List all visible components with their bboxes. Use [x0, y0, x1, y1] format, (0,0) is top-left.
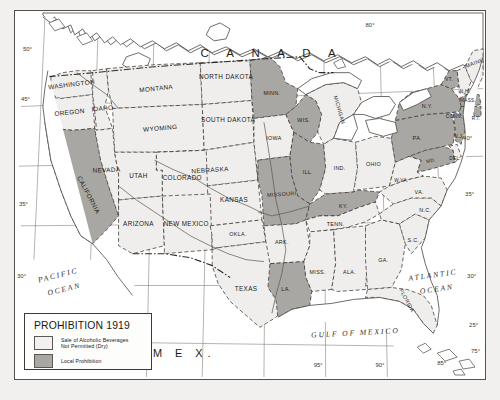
label-tennessee: TENN.: [327, 221, 345, 227]
label-nevada: NEVADA: [92, 165, 121, 173]
map-page: C A N A D A M E X. WASHINGTON OREGON IDA…: [0, 0, 500, 400]
label-mississippi: MISS.: [310, 269, 326, 275]
grat-left-45: 45°: [21, 96, 31, 102]
label-vermont: VT.: [445, 77, 453, 82]
label-massachusetts: MASS.: [460, 99, 476, 104]
label-west-virginia: W.VA.: [394, 178, 408, 183]
label-utah: UTAH: [129, 172, 147, 179]
grat-right-25: 25°: [469, 322, 479, 328]
label-pennsylvania: PA.: [413, 135, 422, 141]
label-oklahoma: OKLA.: [229, 231, 247, 237]
label-indiana: IND.: [334, 165, 346, 171]
state-alabama: [332, 226, 368, 292]
grat-right-40: 40°: [463, 135, 473, 141]
label-south-dakota: SOUTH DAKOTA: [201, 116, 255, 123]
legend-entry-local: Local Prohibition: [34, 354, 151, 368]
grat-left-35: 35°: [19, 201, 29, 207]
grat-left-50: 50°: [23, 46, 33, 52]
label-minnesota: MINN.: [263, 90, 280, 96]
label-kentucky: KY.: [339, 203, 348, 209]
label-new-mexico: NEW MEXICO: [164, 220, 209, 227]
label-iowa: IOWA: [266, 135, 282, 141]
label-new-york: N.Y.: [422, 103, 433, 109]
label-rhode-island: R.I.: [472, 116, 481, 121]
state-south-dakota: [202, 101, 254, 151]
legend-entry-dry: Sale of Alcoholic Beverages Not Permitte…: [34, 336, 151, 350]
grat-left-30: 30°: [17, 273, 27, 279]
label-ohio: OHIO: [366, 161, 381, 167]
label-connecticut: CONN.: [446, 114, 463, 119]
label-kansas: KANSAS: [220, 196, 248, 203]
label-mexico: M E X.: [153, 347, 216, 359]
label-arkansas: ARK.: [275, 239, 289, 245]
grat-top-80: 80°: [366, 22, 376, 28]
legend-label-local: Local Prohibition: [61, 358, 101, 364]
label-wisconsin: WIS.: [297, 117, 310, 123]
label-colorado: COLORADO: [163, 174, 202, 181]
grat-bottom-95: 95°: [314, 362, 324, 368]
grat-right-35: 35°: [465, 191, 475, 197]
legend-title: PROHIBITION 1919: [34, 320, 151, 331]
legend-swatch-dry: [34, 336, 53, 350]
label-virginia: VA.: [415, 189, 424, 195]
label-alabama: ALA.: [343, 269, 356, 275]
label-delaware: DEL.: [449, 156, 461, 161]
map-legend: PROHIBITION 1919 Sale of Alcoholic Bever…: [24, 313, 152, 370]
label-idaho: IDAHO: [91, 104, 113, 113]
label-new-hampshire: N.H.: [460, 89, 471, 94]
label-canada: C A N A D A: [201, 47, 344, 59]
legend-label-dry: Sale of Alcoholic Beverages Not Permitte…: [61, 337, 129, 350]
grat-bottom-90: 90°: [375, 362, 385, 368]
label-south-carolina: S.C.: [407, 237, 419, 243]
label-arizona: ARIZONA: [123, 220, 154, 227]
label-texas: TEXAS: [235, 285, 258, 292]
grat-right-30: 30°: [467, 273, 477, 279]
legend-swatch-local: [34, 354, 53, 368]
label-louisiana: LA.: [281, 286, 290, 292]
label-north-dakota: NORTH DAKOTA: [199, 73, 254, 80]
label-illinois: ILL.: [303, 169, 313, 175]
label-north-carolina: N.C.: [419, 207, 431, 213]
label-georgia: GA.: [378, 257, 388, 263]
grat-bottom-85: 85°: [437, 360, 447, 366]
state-north-dakota: [200, 61, 252, 105]
state-minnesota: [250, 57, 298, 119]
grat-right-75: 75°: [471, 348, 481, 354]
